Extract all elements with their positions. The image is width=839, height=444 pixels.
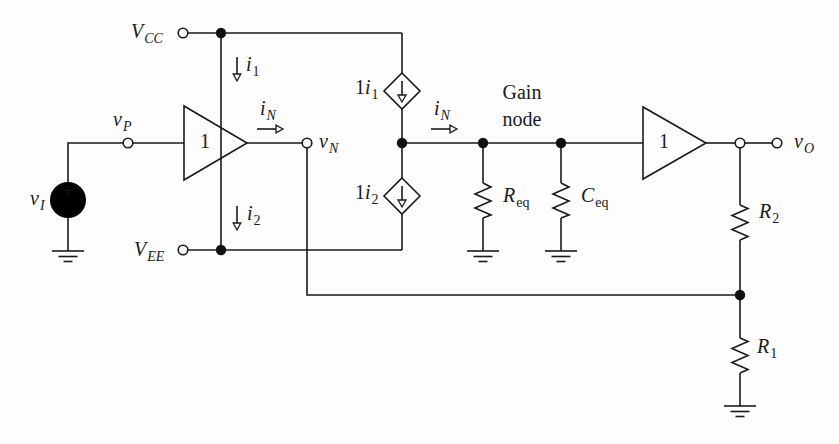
circuit-figure: VCC VEE vI vP vN vO i1 i2 iN iN 1i1 1i2 … [0,0,839,444]
vee-terminal [178,245,188,255]
ceq-zigzag [553,183,569,218]
in2-current-arrow [431,125,457,133]
vi-label: vI [30,187,45,209]
r1-ground-symbol [724,406,756,417]
vn-label: vN [319,130,338,152]
i2-arrowhead [233,223,241,230]
junction-dot-ceq [556,138,566,148]
dependent-source-1i2 [384,178,420,214]
junction-dot-feedback [735,290,745,300]
in1-arrowhead [276,125,283,133]
dependent-source-1i1 [384,73,420,109]
in2-arrowhead [450,125,457,133]
wires [68,33,772,406]
junction-dot-req [478,138,488,148]
source-plus-sign: + [59,181,77,202]
ceq-label: Ceq [581,184,609,206]
vi-ground-symbol [52,251,84,262]
vp-label: vP [113,108,131,130]
req-ground-symbol [467,251,499,262]
i2-label: i2 [247,202,261,224]
vo-label: vO [794,130,814,152]
vcc-label: VCC [131,20,163,42]
junction-dot-vcc [216,28,226,38]
buffer2-triangle [643,107,706,179]
r1-label: R1 [757,335,777,357]
vo-terminal [772,138,782,148]
gain-node-label: Gain node [489,79,555,133]
vn-terminal [302,138,312,148]
junction-dot-vee [216,245,226,255]
buffer2-gain-label: 1 [656,130,672,152]
in2-label: iN [434,97,450,119]
dep1-label: 1i1 [355,76,379,98]
vee-label: VEE [134,238,164,260]
junction-dot-sources [397,138,407,148]
input-source-wire [68,143,123,182]
schematic-canvas [0,0,839,444]
i1-current-arrow [233,57,241,81]
i1-label: i1 [246,53,260,75]
vn-feedback-wire [307,148,740,295]
diamond-1i1-arrowhead [398,95,406,102]
buffer1-gain-label: 1 [197,130,213,152]
vcc-terminal [178,28,188,38]
r1-zigzag [732,338,748,373]
in1-current-arrow [257,125,283,133]
r2-zigzag [732,205,748,240]
i2-current-arrow [233,206,241,230]
req-zigzag [475,183,491,218]
i1-arrowhead [233,74,241,81]
buffer1-triangle [184,106,247,180]
req-label: Req [503,184,529,206]
dep2-label: 1i2 [355,181,379,203]
vp-terminal [123,138,133,148]
output-node-terminal [735,138,745,148]
ceq-ground-symbol [545,251,577,262]
diamond-1i2-arrowhead [398,200,406,207]
r2-label: R2 [759,200,779,222]
in1-label: iN [260,97,276,119]
